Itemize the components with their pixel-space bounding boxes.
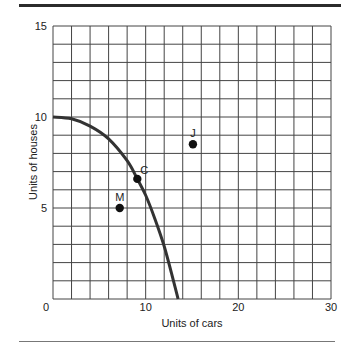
y-tick-10: 10 — [35, 111, 47, 123]
y-tick-15: 15 — [35, 20, 47, 32]
x-tick-30: 30 — [325, 301, 337, 313]
point-c — [133, 175, 141, 183]
x-tick-10: 10 — [140, 301, 152, 313]
y-tick-5: 5 — [41, 202, 47, 214]
x-tick-0: 0 — [43, 301, 49, 313]
point-label-m: M — [115, 191, 124, 203]
point-m — [116, 204, 124, 212]
x-axis-label: Units of cars — [161, 317, 223, 329]
y-axis-label: Units of houses — [27, 124, 39, 200]
ppf-chart: CMJ 0102030 51015 Units of cars Units of… — [0, 0, 347, 349]
x-axis-ticks: 0102030 — [43, 301, 337, 313]
bottom-rule — [19, 341, 335, 342]
point-j — [189, 140, 197, 148]
point-label-j: J — [190, 127, 196, 139]
x-tick-20: 20 — [232, 301, 244, 313]
grid — [53, 26, 331, 299]
point-label-c: C — [140, 164, 148, 176]
